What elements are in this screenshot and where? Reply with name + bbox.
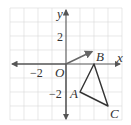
tick-y-neg2: −2 bbox=[49, 87, 62, 101]
point-c-label: C bbox=[110, 106, 119, 121]
tick-y-2: 2 bbox=[57, 30, 63, 44]
x-axis-label: x bbox=[116, 50, 123, 65]
y-axis-label: y bbox=[55, 6, 63, 21]
point-b-label: B bbox=[96, 49, 104, 64]
vector-arrow bbox=[66, 52, 92, 65]
tick-x-neg2: −2 bbox=[30, 66, 43, 80]
origin-label: O bbox=[55, 65, 65, 80]
point-a-label: A bbox=[69, 86, 78, 101]
coordinate-plane: y x O −2 2 −2 B A C bbox=[0, 0, 131, 125]
